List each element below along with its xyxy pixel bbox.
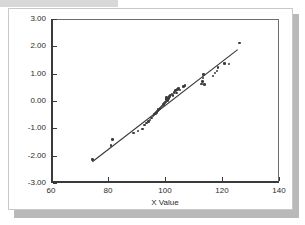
- data-point: [137, 130, 140, 133]
- x-tick-label: 100: [158, 187, 171, 195]
- data-point: [223, 62, 226, 65]
- x-tick: [279, 177, 280, 181]
- data-point: [238, 42, 241, 45]
- screenshot-root: -3.00-2.00-1.000.001.002.003.00 60801001…: [0, 0, 305, 225]
- y-tick-label: 1.00: [30, 70, 46, 78]
- y-tick-label: 2.00: [30, 42, 46, 50]
- x-tick-label: 120: [215, 187, 228, 195]
- data-point: [91, 158, 94, 161]
- data-point: [179, 89, 182, 92]
- y-tick-label: -2.00: [28, 152, 46, 160]
- data-point: [228, 63, 231, 66]
- x-tick-label: 60: [47, 187, 56, 195]
- data-point: [217, 66, 220, 69]
- data-point: [216, 70, 219, 73]
- data-point: [203, 83, 206, 86]
- plot-area: -3.00-2.00-1.000.001.002.003.00 60801001…: [51, 19, 279, 183]
- data-point: [111, 138, 114, 141]
- data-point: [141, 128, 144, 131]
- x-axis-title: X Value: [51, 199, 279, 207]
- data-point: [132, 132, 135, 135]
- x-tick-label: 140: [272, 187, 285, 195]
- window-top-strip: [0, 0, 118, 7]
- y-tick-label: 3.00: [30, 15, 46, 23]
- scatter-points: [51, 19, 279, 183]
- y-tick-label: 0.00: [30, 97, 46, 105]
- data-point: [172, 94, 175, 97]
- data-point: [214, 72, 217, 75]
- y-tick: [53, 183, 57, 184]
- data-point: [143, 124, 146, 127]
- data-point: [202, 73, 205, 76]
- data-point: [150, 117, 153, 120]
- data-point: [184, 84, 187, 87]
- y-tick-label: -3.00: [28, 179, 46, 187]
- y-tick-label: -1.00: [28, 124, 46, 132]
- chart-card: -3.00-2.00-1.000.001.002.003.00 60801001…: [8, 8, 293, 210]
- data-point: [110, 144, 113, 147]
- data-point: [212, 75, 215, 78]
- data-point: [202, 77, 205, 80]
- data-point: [201, 80, 204, 83]
- x-tick-label: 80: [104, 187, 113, 195]
- data-point: [175, 92, 178, 95]
